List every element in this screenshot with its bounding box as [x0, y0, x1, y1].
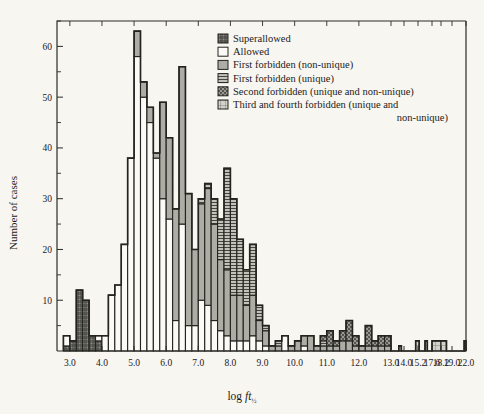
legend-swatch — [218, 87, 228, 96]
x-tick-label: 7.0 — [192, 358, 204, 368]
histogram-segment — [179, 224, 185, 351]
histogram-segment — [365, 326, 371, 346]
histogram-segment — [76, 290, 82, 351]
histogram-segment — [160, 102, 166, 198]
histogram-segment — [147, 107, 153, 122]
histogram-segment — [63, 336, 69, 346]
x-tick-label: 12.0 — [351, 358, 368, 368]
histogram-chart: 1020304050603.04.05.06.07.08.09.010.011.… — [0, 0, 484, 414]
histogram-segment — [147, 123, 153, 351]
histogram-segment — [333, 346, 339, 351]
histogram-segment — [134, 31, 140, 56]
legend-swatch — [218, 60, 228, 69]
histogram-segment — [218, 260, 224, 331]
legend-label: Allowed — [233, 46, 270, 57]
histogram-segment — [237, 295, 243, 341]
histogram-segment — [352, 336, 358, 346]
y-tick-label: 40 — [43, 143, 53, 153]
histogram-segment — [327, 331, 333, 346]
histogram-segment — [250, 244, 256, 295]
x-tick-label: 8.0 — [224, 358, 236, 368]
histogram-segment — [256, 341, 262, 351]
histogram-segment — [372, 346, 378, 351]
histogram-segment — [295, 341, 301, 351]
histogram-segment — [96, 341, 102, 351]
histogram-segment — [256, 321, 262, 341]
histogram-segment — [275, 346, 281, 351]
histogram-segment — [198, 204, 204, 300]
histogram-segment — [205, 305, 211, 351]
histogram-segment — [346, 321, 352, 341]
histogram-segment — [320, 341, 326, 346]
legend-swatch — [218, 34, 228, 43]
histogram-segment — [218, 331, 224, 351]
histogram-segment — [385, 346, 391, 351]
histogram-segment — [365, 346, 371, 351]
histogram-segment — [308, 336, 314, 351]
histogram-segment — [211, 199, 217, 224]
x-tick-label: 11.0 — [319, 358, 336, 368]
histogram-segment — [352, 346, 358, 351]
histogram-segment — [134, 57, 140, 351]
y-tick-label: 10 — [43, 296, 53, 306]
histogram-segment — [237, 341, 243, 351]
histogram-segment — [128, 158, 134, 351]
legend-swatch — [218, 74, 228, 83]
x-tick-label: 4.0 — [96, 358, 108, 368]
histogram-segment — [250, 295, 256, 336]
histogram-segment — [205, 189, 211, 306]
histogram-segment — [160, 199, 166, 351]
legend-label: First forbidden (unique) — [233, 73, 334, 85]
histogram-segment — [108, 295, 114, 351]
y-tick-label: 20 — [43, 245, 53, 255]
histogram-segment — [121, 244, 127, 351]
x-tick-label: 9.0 — [257, 358, 269, 368]
x-tick-label: 5.0 — [128, 358, 140, 368]
histogram-segment — [243, 305, 249, 341]
histogram-segment — [263, 331, 269, 346]
histogram-segment — [432, 341, 441, 351]
x-tick-label: 10.0 — [286, 358, 303, 368]
histogram-segment — [301, 346, 307, 351]
histogram-segment — [243, 341, 249, 351]
legend-label: Second forbidden (unique and non-unique) — [233, 86, 414, 98]
legend-label: Superallowed — [233, 33, 291, 44]
histogram-segment — [230, 199, 236, 295]
histogram-segment — [282, 336, 288, 351]
histogram-segment — [230, 295, 236, 341]
histogram-segment — [198, 300, 204, 351]
histogram-segment — [153, 158, 159, 351]
histogram-segment — [378, 336, 384, 346]
histogram-segment — [320, 346, 326, 351]
x-tick-label: 6.0 — [160, 358, 172, 368]
histogram-segment — [441, 341, 447, 351]
histogram-segment — [141, 97, 147, 351]
y-tick-label: 50 — [43, 93, 53, 103]
figure-container: 1020304050603.04.05.06.07.08.09.010.011.… — [0, 0, 484, 414]
histogram-segment — [185, 194, 191, 326]
histogram-segment — [385, 336, 391, 346]
legend-label: First forbidden (non-unique) — [233, 59, 354, 71]
histogram-segment — [211, 224, 217, 320]
y-axis-title: Number of cases — [7, 176, 19, 250]
histogram-segment — [63, 346, 69, 351]
histogram-segment — [250, 336, 256, 351]
histogram-segment — [378, 346, 384, 351]
histogram-segment — [340, 341, 346, 351]
histogram-segment — [185, 326, 191, 351]
histogram-segment — [346, 341, 352, 351]
histogram-segment — [218, 219, 224, 260]
histogram-segment — [224, 168, 230, 270]
histogram-segment — [141, 82, 147, 97]
legend-layer: SuperallowedAllowedFirst forbidden (non-… — [218, 33, 448, 124]
histogram-segment — [263, 346, 269, 351]
histogram-segment — [173, 321, 179, 351]
y-tick-label: 30 — [43, 194, 53, 204]
histogram-segment — [173, 209, 179, 321]
histogram-segment — [224, 336, 230, 351]
x-tick-label: 22.0 — [458, 358, 475, 368]
histogram-segment — [301, 336, 307, 346]
x-tick-label: 3.0 — [64, 358, 76, 368]
histogram-segment — [327, 346, 333, 351]
histogram-segment — [192, 326, 198, 351]
